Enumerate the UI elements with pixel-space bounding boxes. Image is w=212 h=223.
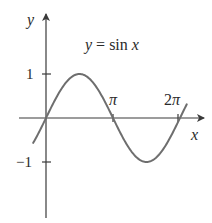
x-tick-label-2pi-coef: 2	[164, 91, 172, 108]
y-tick-label-neg1: −1	[16, 154, 32, 170]
chart-title: y = sin x	[83, 36, 139, 54]
y-tick-label-1: 1	[26, 66, 34, 82]
x-axis-label: x	[190, 126, 198, 143]
title-var: x	[131, 36, 139, 53]
x-tick-label-pi: π	[109, 91, 118, 108]
sine-chart: y x 1 −1 π 2π y = sin x	[0, 0, 212, 223]
y-axis-label: y	[25, 11, 35, 29]
x-tick-label-2pi: 2π	[164, 91, 181, 108]
title-eq: =	[92, 36, 109, 53]
x-tick-label-2pi-sym: π	[172, 91, 181, 108]
title-fn: sin	[109, 36, 132, 53]
